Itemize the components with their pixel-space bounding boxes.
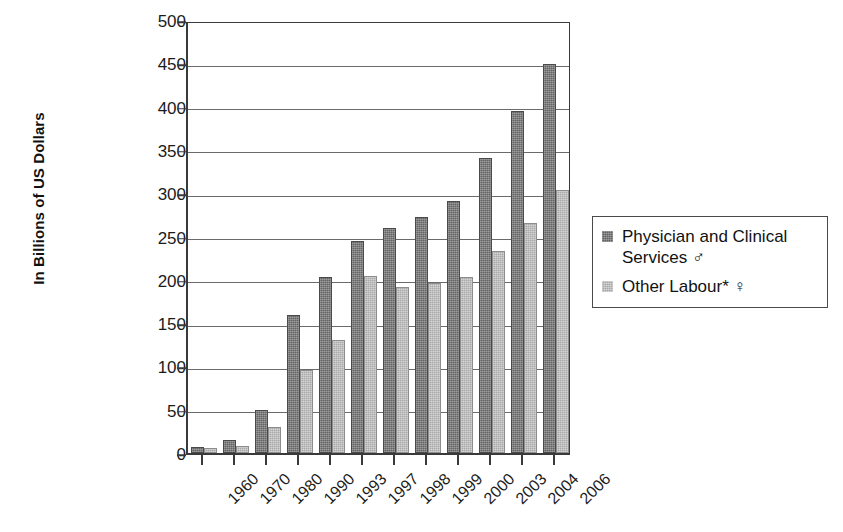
x-axis-tick-mark	[425, 455, 427, 465]
bar	[191, 447, 204, 453]
bar-chart: In Billions of US Dollars 05010015020025…	[0, 0, 843, 532]
bar	[415, 217, 428, 453]
bar-group	[220, 23, 252, 453]
bar	[460, 277, 473, 453]
bar	[447, 201, 460, 453]
bar	[319, 277, 332, 453]
x-axis-tick-mark	[233, 455, 235, 465]
bar	[300, 370, 313, 453]
x-axis-tick-mark	[553, 455, 555, 465]
x-axis-tick-mark	[361, 455, 363, 465]
bar	[396, 287, 409, 453]
bar	[268, 427, 281, 453]
bar	[332, 340, 345, 453]
y-axis-tick-mark	[177, 281, 186, 283]
legend-item-label: Physician and Clinical Services ♂	[622, 226, 817, 268]
bar	[255, 410, 268, 453]
y-axis-title: In Billions of US Dollars	[30, 69, 47, 329]
legend-swatch-icon	[602, 231, 613, 242]
x-axis-tick-label: 1998	[416, 470, 454, 508]
bar	[204, 448, 217, 453]
y-axis-tick-mark	[177, 454, 186, 456]
x-axis-tick-label: 2003	[512, 470, 550, 508]
bar-group	[316, 23, 348, 453]
bar	[223, 440, 236, 453]
x-axis-tick-mark	[297, 455, 299, 465]
x-axis-tick-label: 2006	[576, 470, 614, 508]
bar-group	[444, 23, 476, 453]
x-axis-tick-mark	[489, 455, 491, 465]
bar	[364, 276, 377, 453]
y-axis-tick-mark	[177, 21, 186, 23]
x-axis-tick-mark	[457, 455, 459, 465]
bar-group	[476, 23, 508, 453]
legend-swatch-icon	[602, 281, 613, 292]
bar	[383, 228, 396, 453]
bar	[543, 64, 556, 453]
y-axis-tick-mark	[177, 151, 186, 153]
chart-legend: Physician and Clinical Services ♂ Other …	[592, 216, 828, 308]
bar-group	[188, 23, 220, 453]
y-axis-tick-mark	[177, 108, 186, 110]
x-axis-tick-label: 1960	[224, 470, 262, 508]
bar	[479, 158, 492, 453]
plot-area	[186, 22, 570, 455]
x-axis-tick-label: 2004	[544, 470, 582, 508]
legend-item[interactable]: Other Labour* ♀	[602, 276, 817, 297]
legend-item-label: Other Labour* ♀	[622, 276, 746, 297]
x-axis-tick-label: 1993	[352, 470, 390, 508]
y-axis-tick-mark	[177, 411, 186, 413]
bar	[524, 223, 537, 453]
bar-group	[412, 23, 444, 453]
x-axis-tick-mark	[393, 455, 395, 465]
x-axis-tick-mark	[521, 455, 523, 465]
x-axis-tick-mark	[201, 455, 203, 465]
y-axis-tick-mark	[177, 368, 186, 370]
legend-item[interactable]: Physician and Clinical Services ♂	[602, 226, 817, 268]
x-axis-tick-label: 2000	[480, 470, 518, 508]
bar-group	[252, 23, 284, 453]
bar-group	[540, 23, 572, 453]
y-axis-tick-mark	[177, 65, 186, 67]
y-axis-tick-mark	[177, 238, 186, 240]
bar	[287, 315, 300, 453]
x-axis-tick-label: 1999	[448, 470, 486, 508]
y-axis-tick-mark	[177, 324, 186, 326]
y-axis-tick-column: 050100150200250300350400450500	[106, 0, 186, 532]
bar	[556, 190, 569, 453]
x-axis-tick-label: 1980	[288, 470, 326, 508]
x-axis-tick-label: 1997	[384, 470, 422, 508]
x-axis-tick-label: 1990	[320, 470, 358, 508]
x-axis-tick-label: 1970	[256, 470, 294, 508]
x-axis-tick-mark	[329, 455, 331, 465]
bar-group	[348, 23, 380, 453]
bar	[351, 241, 364, 453]
bar-group	[380, 23, 412, 453]
y-axis-tick-mark	[177, 194, 186, 196]
bar	[236, 446, 249, 453]
bar	[511, 111, 524, 453]
bar	[428, 283, 441, 453]
bar-group	[284, 23, 316, 453]
bar-group	[508, 23, 540, 453]
x-axis-tick-mark	[265, 455, 267, 465]
bar	[492, 251, 505, 453]
